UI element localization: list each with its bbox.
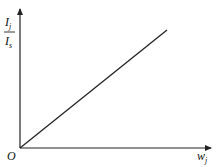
y-axis-label: Ij Is — [4, 15, 15, 50]
chart: Ij Is O wj — [0, 0, 219, 167]
data-line — [20, 30, 167, 148]
svg-text:Ij: Ij — [4, 15, 12, 31]
svg-text:Is: Is — [4, 34, 12, 50]
x-axis-label: wj — [197, 149, 208, 165]
origin-label: O — [7, 149, 16, 163]
